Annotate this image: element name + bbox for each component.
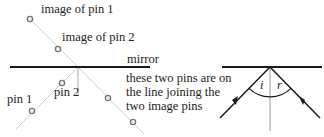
label-angle-r: r — [277, 78, 282, 92]
label-mirror: mirror — [127, 52, 160, 66]
reflected-arrow-icon — [299, 96, 305, 105]
pin-reflection-diagram: image of pin 1 image of pin 2 mirror pin… — [0, 0, 324, 137]
note-line-3: two image pins — [126, 99, 203, 113]
note-line-1: these two pins are on — [126, 71, 232, 85]
label-pin2: pin 2 — [54, 85, 79, 99]
note-line-2: the line joining the — [126, 85, 221, 99]
right-pin-b-marker — [130, 119, 135, 124]
reflected-ray — [270, 67, 320, 118]
label-pin1: pin 1 — [7, 92, 32, 106]
label-angle-i: i — [260, 78, 264, 92]
left-diagram: image of pin 1 image of pin 2 mirror pin… — [7, 2, 232, 134]
label-image-pin2: image of pin 2 — [62, 30, 135, 44]
label-image-pin1: image of pin 1 — [41, 2, 114, 16]
right-diagram: i r — [220, 67, 322, 131]
